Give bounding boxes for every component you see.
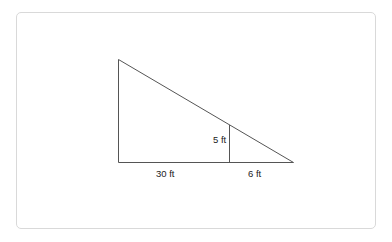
- base-right-label: 6 ft: [248, 168, 261, 179]
- triangle-diagram: [0, 0, 392, 242]
- base-left-label: 30 ft: [156, 168, 175, 179]
- large-triangle: [119, 60, 294, 163]
- inner-height-label: 5 ft: [213, 134, 226, 145]
